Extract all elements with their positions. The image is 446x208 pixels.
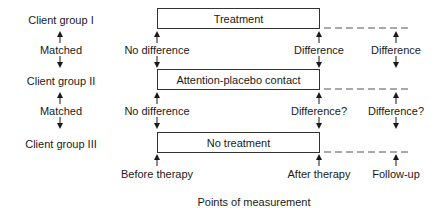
comparison-before-1: No difference — [124, 44, 189, 56]
attention-placebo-box: Attention-placebo contact — [157, 69, 320, 90]
matched-label-2: Matched — [40, 105, 82, 117]
comparison-after-1: Difference — [294, 44, 344, 56]
timepoint-before: Before therapy — [121, 168, 193, 180]
comparison-followup-2: Difference? — [368, 105, 424, 117]
comparison-followup-1: Difference — [371, 44, 421, 56]
treatment-box: Treatment — [157, 8, 320, 29]
comparison-after-2: Difference? — [291, 105, 347, 117]
group-label-1: Client group I — [28, 14, 93, 26]
timepoint-after: After therapy — [288, 168, 351, 180]
no-treatment-box: No treatment — [157, 132, 320, 153]
comparison-before-2: No difference — [124, 105, 189, 117]
timepoint-followup: Follow-up — [372, 168, 420, 180]
group-label-2: Client group II — [27, 75, 95, 87]
group-label-3: Client group III — [25, 138, 97, 150]
axis-caption: Points of measurement — [197, 196, 310, 208]
matched-label-1: Matched — [40, 44, 82, 56]
